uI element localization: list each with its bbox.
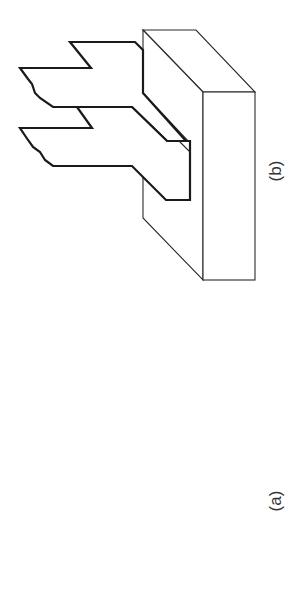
diagram-canvas: [0, 0, 304, 592]
panel-b-label: (b): [266, 161, 286, 182]
panel-b-block-front-face: [203, 92, 255, 280]
panel-a-label: (a): [266, 491, 286, 512]
panel-b-drawing: [20, 30, 255, 280]
